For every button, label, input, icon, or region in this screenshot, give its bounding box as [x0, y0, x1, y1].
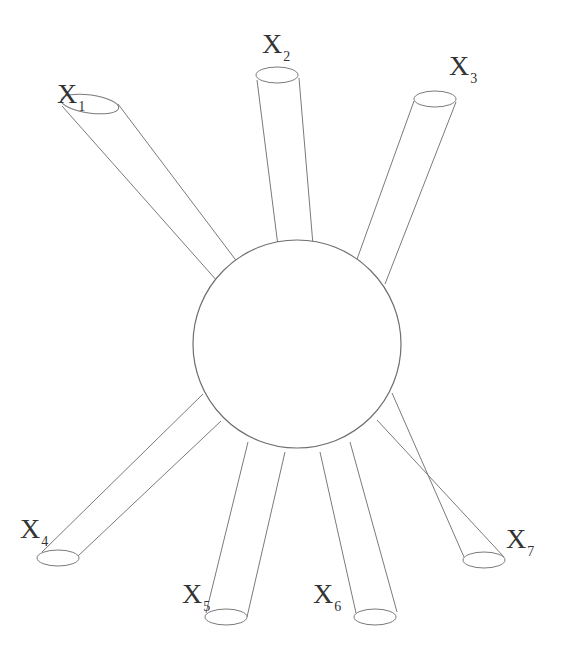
label-x1: X1 [57, 80, 85, 108]
label-x5-subscript: 5 [203, 599, 210, 614]
cylinder-x3-edge-2 [385, 102, 456, 284]
diagram-canvas: X1 X2 X3 X4 X5 X6 X7 [0, 0, 562, 659]
label-x6: X6 [313, 580, 341, 608]
cylinder-x6-edge-2 [350, 442, 397, 612]
cylinder-x1-edge-2 [118, 104, 238, 263]
cylinder-x4-edge-2 [78, 421, 221, 556]
label-x5: X5 [182, 580, 210, 608]
cylinder-x2-edge-2 [299, 78, 313, 245]
cylinder-x3-edge-1 [356, 101, 414, 262]
cylinder-x6-cap [354, 609, 396, 625]
cylinder-x3-cap [414, 91, 456, 107]
cylinder-x7-edge-2 [377, 420, 504, 557]
cylinder-x2-cap [256, 67, 298, 83]
cylinder-x2 [256, 67, 313, 246]
central-sphere [193, 240, 401, 448]
label-x4-base: X [20, 513, 40, 544]
label-x1-subscript: 1 [78, 99, 85, 114]
cylinder-x5-edge-2 [247, 452, 285, 617]
cylinder-x4-cap [37, 550, 79, 566]
label-x2-base: X [262, 28, 282, 59]
cylinder-x7-cap [463, 552, 505, 568]
cylinder-x3 [356, 91, 456, 284]
label-x4-subscript: 4 [41, 534, 48, 549]
label-x4: X4 [20, 515, 48, 543]
label-x2-subscript: 2 [283, 49, 290, 64]
label-x6-base: X [313, 578, 333, 609]
label-x3-subscript: 3 [470, 71, 477, 86]
cylinder-x5-cap [205, 609, 247, 625]
cylinder-x2-edge-1 [257, 80, 278, 246]
cylinder-x4-edge-1 [42, 394, 203, 552]
label-x7: X7 [506, 525, 534, 553]
label-x5-base: X [182, 578, 202, 609]
cylinder-x5 [205, 442, 285, 625]
cylinder-x4 [37, 394, 221, 566]
label-x1-base: X [57, 78, 77, 109]
label-x6-subscript: 6 [334, 599, 341, 614]
label-x3-base: X [449, 50, 469, 81]
cylinder-x1 [60, 91, 238, 282]
cylinder-x7 [377, 393, 505, 568]
label-x2: X2 [262, 30, 290, 58]
cylinder-x5-edge-1 [206, 442, 248, 613]
label-x3: X3 [449, 52, 477, 80]
label-x7-base: X [506, 523, 526, 554]
label-x7-subscript: 7 [527, 544, 534, 559]
